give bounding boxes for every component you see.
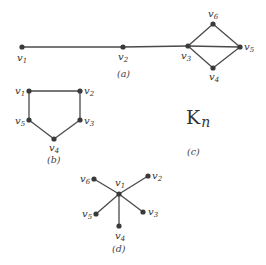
panel-a-graph: v1 v2 v3 v4 v5 v6 (a) <box>17 8 255 84</box>
vertex-a-v4 <box>210 65 215 70</box>
label-b-v2: v2 <box>84 85 95 98</box>
label-b-v5: v5 <box>15 115 26 128</box>
vertex-d-v1 <box>116 191 121 196</box>
label-a-v2: v2 <box>118 51 129 64</box>
edge-b-v4-v5 <box>29 120 54 139</box>
edge-a-v6-v5 <box>213 24 240 47</box>
edge-a-v3-v5 <box>188 46 240 47</box>
label-a-v1: v1 <box>17 52 27 65</box>
edge-a-v3-v6 <box>188 24 213 46</box>
vertex-b-v5 <box>26 117 31 122</box>
label-d-v5: v5 <box>82 208 93 221</box>
panel-c-complete-graph: Kn (c) <box>186 106 210 157</box>
vertex-a-v5 <box>237 44 242 49</box>
edge-a-v3-v4 <box>188 46 213 68</box>
edge-b-v3-v4 <box>54 120 80 139</box>
vertex-d-v2 <box>145 173 150 178</box>
label-d-v1: v1 <box>115 177 125 190</box>
label-a-v3: v3 <box>181 50 192 63</box>
caption-a: (a) <box>117 68 130 79</box>
edge-a-v2-v3 <box>123 46 188 47</box>
vertex-a-v6 <box>210 21 215 26</box>
label-b-v1: v1 <box>15 85 25 98</box>
panel-b-graph: v1 v2 v3 v4 v5 (b) <box>15 85 95 165</box>
label-b-v3: v3 <box>84 115 95 128</box>
label-a-v5: v5 <box>244 41 255 54</box>
label-a-v6: v6 <box>208 8 219 21</box>
vertex-b-v3 <box>77 117 82 122</box>
edge-d-v1-v3 <box>119 194 143 212</box>
vertex-d-v3 <box>140 209 145 214</box>
vertex-d-v5 <box>93 211 98 216</box>
panel-d-star-graph: v1 v2 v3 v4 v5 v6 (d) <box>80 170 163 254</box>
label-d-v6: v6 <box>80 173 91 186</box>
label-d-v3: v3 <box>148 206 159 219</box>
vertex-d-v6 <box>91 176 96 181</box>
vertex-b-v1 <box>26 88 31 93</box>
vertex-b-v2 <box>77 88 82 93</box>
label-a-v4: v4 <box>209 71 219 84</box>
caption-d: (d) <box>112 243 126 254</box>
label-d-v4: v4 <box>115 230 125 243</box>
graph-figure: v1 v2 v3 v4 v5 v6 (a) v1 v2 v3 v4 v5 (b)… <box>0 0 266 265</box>
caption-c: (c) <box>187 146 200 157</box>
edge-a-v4-v5 <box>213 47 240 68</box>
vertex-a-v3 <box>185 43 190 48</box>
kn-label: Kn <box>186 106 210 130</box>
vertex-a-v2 <box>120 44 125 49</box>
label-d-v2: v2 <box>152 170 163 183</box>
vertex-b-v4 <box>51 136 56 141</box>
edge-d-v1-v5 <box>96 194 119 214</box>
caption-b: (b) <box>47 154 61 165</box>
vertex-a-v1 <box>19 44 24 49</box>
vertex-d-v4 <box>116 223 121 228</box>
